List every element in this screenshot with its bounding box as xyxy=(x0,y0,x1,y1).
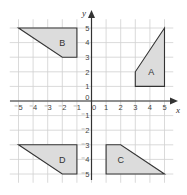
coordinate-grid-diagram: x y ⁻5⁻4⁻3⁻2⁻1012345543210⁻1⁻2⁻3⁻4⁻5 ABC… xyxy=(0,0,187,195)
shape-label-d: D xyxy=(59,155,66,165)
x-tick-label: 4 xyxy=(148,103,152,112)
x-tick-label: ⁻1 xyxy=(73,103,81,112)
x-axis-label: x xyxy=(175,105,180,115)
y-tick-label: 2 xyxy=(85,68,89,77)
y-tick-label: 4 xyxy=(85,38,89,47)
x-tick-label: ⁻5 xyxy=(14,103,22,112)
x-tick-label: 3 xyxy=(133,103,137,112)
y-tick-label: 5 xyxy=(85,24,89,33)
y-tick-label: ⁻2 xyxy=(81,126,89,135)
shape-label-c: C xyxy=(117,155,124,165)
shape-label-a: A xyxy=(148,67,154,77)
y-tick-label: ⁻3 xyxy=(81,141,89,150)
x-tick-label: ⁻4 xyxy=(29,103,37,112)
x-tick-label: 0 xyxy=(92,103,96,112)
y-axis-arrow-icon xyxy=(88,10,95,18)
y-axis-label: y xyxy=(81,8,86,18)
y-tick-label: 0 xyxy=(85,93,89,102)
y-tick-label: 3 xyxy=(85,53,89,62)
y-tick-label: ⁻5 xyxy=(81,170,89,179)
x-tick-label: ⁻3 xyxy=(44,103,52,112)
x-tick-label: 1 xyxy=(104,103,108,112)
x-tick-label: 5 xyxy=(162,103,166,112)
x-tick-label: ⁻2 xyxy=(58,103,66,112)
shape-label-b: B xyxy=(59,38,65,48)
y-tick-label: ⁻1 xyxy=(81,111,89,120)
y-tick-label: ⁻4 xyxy=(81,155,89,164)
x-tick-label: 2 xyxy=(119,103,123,112)
x-axis-arrow-icon xyxy=(170,98,178,105)
y-tick-label: 1 xyxy=(85,82,89,91)
